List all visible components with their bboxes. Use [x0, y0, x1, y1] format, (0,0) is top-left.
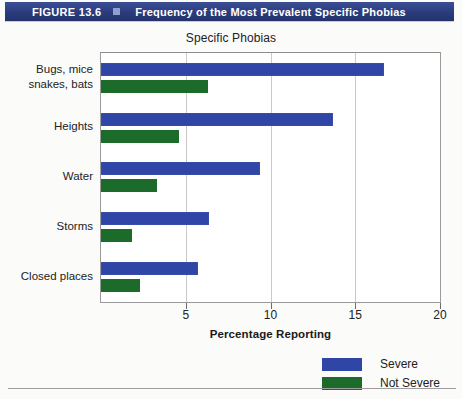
- bar-not-severe: [101, 179, 157, 192]
- figure-banner: FIGURE 13.6 Frequency of the Most Preval…: [5, 2, 454, 21]
- bar-group: [101, 202, 440, 252]
- bar-group: [101, 153, 440, 203]
- chart-title: Specific Phobias: [0, 31, 462, 45]
- bar-severe: [101, 262, 198, 275]
- bar-spacer: [101, 275, 440, 279]
- bar-not-severe: [101, 229, 132, 242]
- square-marker-icon: [113, 8, 120, 15]
- bar-group: [101, 252, 440, 302]
- y-axis-label: Closed places: [0, 269, 93, 284]
- legend-label: Severe: [380, 357, 418, 371]
- plot-area: [100, 52, 441, 303]
- y-axis-label-line: Water: [0, 169, 93, 184]
- legend-item: Severe: [322, 356, 440, 372]
- y-axis-label-line: Bugs, mice: [0, 62, 93, 77]
- x-axis-tick-label: 15: [349, 308, 362, 322]
- y-axis-label-line: Heights: [0, 119, 93, 134]
- bar-not-severe: [101, 80, 208, 93]
- y-axis-label: Heights: [0, 119, 93, 134]
- bar-group: [101, 103, 440, 153]
- bar-severe: [101, 212, 209, 225]
- x-axis-tick-label: 5: [182, 308, 189, 322]
- bar-spacer: [101, 225, 440, 229]
- footer-divider: [8, 388, 456, 389]
- x-axis-title: Percentage Reporting: [100, 328, 441, 340]
- y-axis-label-line: snakes, bats: [0, 77, 93, 92]
- x-axis-tick-label: 10: [264, 308, 277, 322]
- figure-number: FIGURE 13.6: [32, 6, 101, 18]
- bar-not-severe: [101, 279, 140, 292]
- bar-group: [101, 53, 440, 103]
- y-axis-label: Storms: [0, 219, 93, 234]
- y-axis-label: Bugs, micesnakes, bats: [0, 62, 93, 92]
- bar-severe: [101, 113, 333, 126]
- x-axis-tick-label: 20: [433, 308, 446, 322]
- bar-not-severe: [101, 130, 179, 143]
- y-axis-labels: Bugs, micesnakes, batsHeightsWaterStorms…: [0, 52, 96, 303]
- y-axis-label-line: Closed places: [0, 269, 93, 284]
- figure-caption-title: Frequency of the Most Prevalent Specific…: [135, 6, 406, 18]
- bar-severe: [101, 63, 384, 76]
- y-axis-label-line: Storms: [0, 219, 93, 234]
- y-axis-label: Water: [0, 169, 93, 184]
- bar-severe: [101, 162, 260, 175]
- legend-swatch: [322, 358, 362, 371]
